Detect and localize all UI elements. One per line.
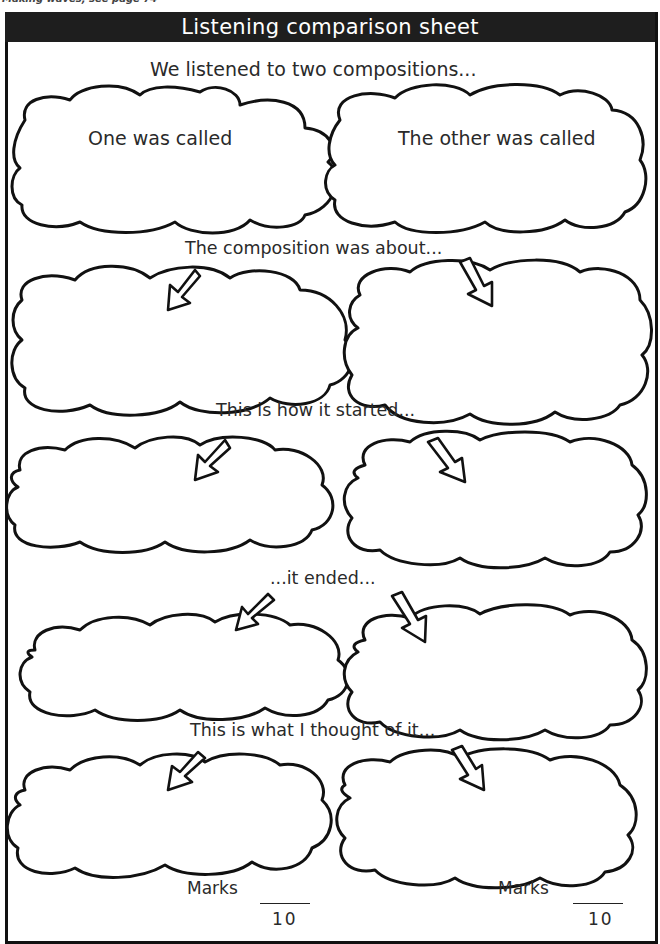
- prompt-thought: This is what I thought of it...: [190, 720, 435, 740]
- cloud-left-ended: [20, 614, 348, 720]
- cloud-right-thought: [337, 749, 636, 888]
- marks-left-input-line[interactable]: [260, 903, 310, 904]
- cloud-left-thought: [7, 754, 331, 877]
- marks-left-denominator: 10: [272, 909, 298, 929]
- marks-right-label: Marks: [498, 878, 549, 898]
- prompt-intro: We listened to two compositions...: [150, 58, 476, 80]
- right-name-label: The other was called: [398, 127, 596, 149]
- marks-left-label: Marks: [187, 878, 238, 898]
- cloud-right-started: [344, 431, 646, 568]
- marks-right-input-line[interactable]: [573, 903, 623, 904]
- cloud-left-started: [7, 437, 333, 553]
- cloud-right-name: [326, 84, 646, 232]
- prompt-ended: ...it ended...: [270, 568, 376, 588]
- prompt-started: This is how it started...: [216, 400, 415, 420]
- marks-right-denominator: 10: [588, 909, 614, 929]
- cloud-left-name: [12, 86, 336, 233]
- prompt-about: The composition was about...: [185, 238, 442, 258]
- left-name-label: One was called: [88, 127, 232, 149]
